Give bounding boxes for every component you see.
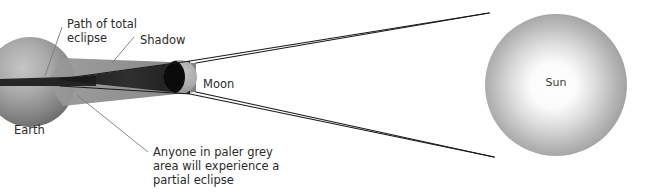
label-earth: Earth xyxy=(14,123,45,137)
label-partial-note-line2: area will experience a xyxy=(153,159,279,173)
label-moon: Moon xyxy=(203,77,234,91)
leader-partial-eclipse-note xyxy=(77,95,148,152)
label-partial-note-line1: Anyone in paler grey xyxy=(153,145,273,159)
label-path-of-total-eclipse-line2: eclipse xyxy=(67,31,107,45)
eclipse-diagram: Path of total eclipse Shadow Moon Earth … xyxy=(0,0,647,192)
eclipse-diagram-canvas: Path of total eclipse Shadow Moon Earth … xyxy=(0,0,647,192)
label-partial-note-line3: partial eclipse xyxy=(153,173,234,187)
label-path-of-total-eclipse-line1: Path of total xyxy=(67,17,137,31)
label-sun: Sun xyxy=(546,76,567,89)
label-shadow: Shadow xyxy=(140,33,185,47)
leader-shadow xyxy=(112,37,134,63)
